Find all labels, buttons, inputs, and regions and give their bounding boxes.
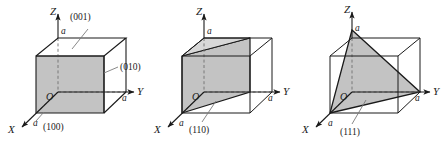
plane-label-001: (001) xyxy=(70,12,91,23)
intercept-y-110: a xyxy=(268,93,273,103)
crystallographic-planes-figure: Z Y X a a a O (001) (010) (100) xyxy=(0,0,445,150)
axis-label-x-110: X xyxy=(153,123,162,135)
intercept-z-111: a xyxy=(355,23,360,33)
origin-label-110: O xyxy=(192,91,199,102)
intercept-x-100: a xyxy=(33,118,38,128)
plane-label-100: (100) xyxy=(43,122,64,133)
intercept-z-100: a xyxy=(61,26,66,36)
plane-label-111: (111) xyxy=(340,127,360,138)
axis-label-x-111: X xyxy=(301,123,310,135)
intercept-x-110: a xyxy=(179,118,184,128)
plane-label-010: (010) xyxy=(120,62,141,73)
intercept-y-111: a xyxy=(415,93,420,103)
plane-label-110: (110) xyxy=(189,125,209,136)
axis-label-x-100: X xyxy=(7,123,16,135)
intercept-z-110: a xyxy=(207,26,212,36)
intercept-y-100: a xyxy=(122,93,127,103)
origin-label-111: O xyxy=(340,91,347,102)
figure-canvas: Z Y X a a a O (001) (010) (100) xyxy=(0,0,445,150)
shaded-face-100 xyxy=(36,56,104,113)
axis-label-z-110: Z xyxy=(196,5,203,17)
intercept-x-111: a xyxy=(328,118,333,128)
axis-label-z-111: Z xyxy=(344,3,351,15)
origin-label-100: O xyxy=(46,91,53,102)
axis-label-z-100: Z xyxy=(50,5,57,17)
